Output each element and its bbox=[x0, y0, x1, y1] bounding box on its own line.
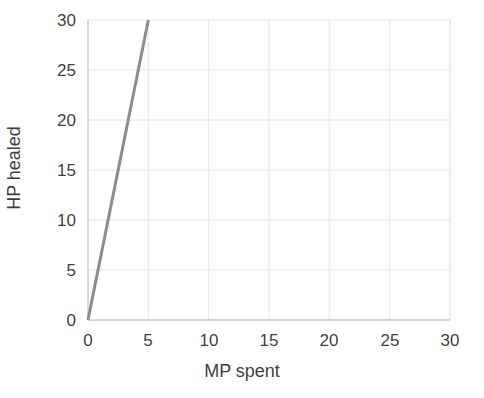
y-axis-title: HP healed bbox=[5, 126, 23, 210]
x-tick-label-25: 25 bbox=[381, 332, 400, 349]
y-tick-label-20: 20 bbox=[44, 112, 76, 129]
y-tick-label-5: 5 bbox=[44, 262, 76, 279]
x-tick-label-10: 10 bbox=[200, 332, 219, 349]
y-tick-label-25: 25 bbox=[44, 62, 76, 79]
x-tick-label-0: 0 bbox=[83, 332, 92, 349]
x-axis-title: MP spent bbox=[0, 362, 484, 380]
y-tick-label-15: 15 bbox=[44, 162, 76, 179]
y-tick-label-10: 10 bbox=[44, 212, 76, 229]
x-tick-label-5: 5 bbox=[143, 332, 152, 349]
x-tick-label-20: 20 bbox=[320, 332, 339, 349]
chart-figure: 30 25 20 15 10 5 0 0 5 10 15 20 25 30 MP… bbox=[0, 0, 484, 398]
y-tick-label-0: 0 bbox=[44, 312, 76, 329]
y-tick-label-30: 30 bbox=[44, 12, 76, 29]
x-tick-label-15: 15 bbox=[260, 332, 279, 349]
x-tick-label-30: 30 bbox=[441, 332, 460, 349]
